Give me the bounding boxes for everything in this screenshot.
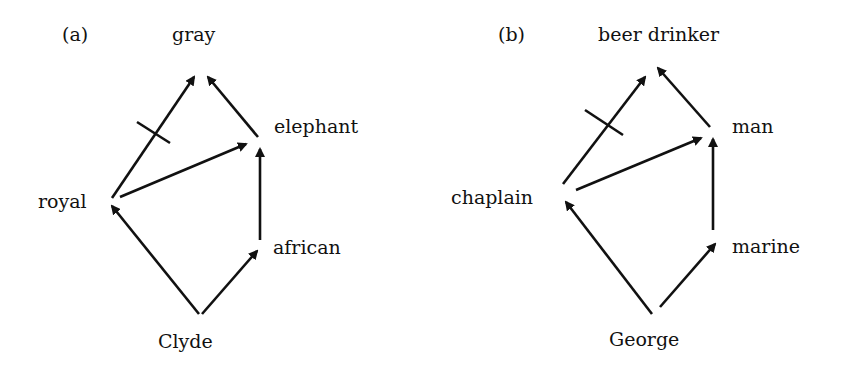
edge-royal-elephant bbox=[120, 144, 246, 197]
edge-george-chaplain bbox=[566, 202, 652, 314]
node-upper-right: elephant bbox=[274, 115, 359, 137]
edge-george-marine bbox=[660, 244, 715, 307]
edge-man-beer-drinker bbox=[658, 68, 710, 127]
node-top: beer drinker bbox=[598, 23, 720, 45]
panel-a: (a) gray elephant royal african Clyde bbox=[38, 23, 359, 352]
node-left: royal bbox=[38, 190, 87, 212]
node-lower-right: marine bbox=[732, 235, 800, 257]
edge-chaplain-man bbox=[576, 138, 701, 190]
node-left: chaplain bbox=[451, 186, 533, 208]
node-bottom: Clyde bbox=[158, 330, 213, 352]
node-bottom: George bbox=[609, 328, 679, 350]
node-upper-right: man bbox=[732, 115, 774, 137]
edge-elephant-gray bbox=[208, 77, 258, 137]
edge-clyde-royal bbox=[112, 206, 199, 314]
negation-tick bbox=[137, 122, 170, 143]
edge-chaplain-beer-drinker bbox=[563, 77, 645, 184]
node-top: gray bbox=[172, 23, 216, 45]
edge-clyde-african bbox=[202, 251, 257, 314]
panel-tag: (b) bbox=[498, 23, 525, 45]
panel-b: (b) beer drinker man chaplain marine Geo… bbox=[451, 23, 800, 350]
inheritance-diagrams: (a) gray elephant royal african Clyde (b… bbox=[0, 0, 848, 370]
node-lower-right: african bbox=[273, 236, 341, 258]
panel-tag: (a) bbox=[62, 23, 88, 45]
edge-royal-gray bbox=[112, 77, 194, 198]
